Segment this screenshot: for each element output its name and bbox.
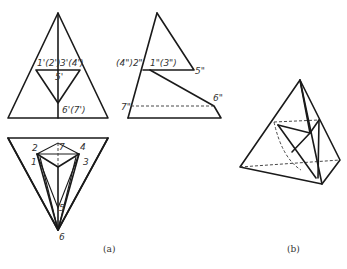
label-top-5: 5 [59,203,65,213]
iso-cut-inner [292,133,310,152]
label-front-6-7: 6'(7') [62,105,85,115]
technical-drawing: 1'(2') 3'(4') 5' 6'(7') (4")2" 1"(3") 5"… [0,0,347,269]
side-lower-shape [128,70,221,118]
label-top-3: 3 [83,157,89,167]
iso-cut-vertical [318,120,319,178]
iso-apex-line [300,80,310,133]
label-top-7: 7 [59,142,65,152]
label-side-7: 7" [121,102,131,112]
label-side-4-2: (4")2" [116,58,143,68]
label-side-6: 6" [213,93,223,103]
isometric-view [240,80,340,184]
top-view [8,138,108,230]
caption-b: (b) [287,244,300,254]
top-facet-line-l [40,157,58,230]
iso-hidden-base [240,160,340,167]
label-top-6: 6 [59,232,65,242]
top-facet-line-r [58,157,76,230]
iso-outer-outline [240,80,340,184]
label-front-3-4: 3'(4') [60,58,83,68]
label-side-5: 5" [195,66,205,76]
iso-hidden-cut-top [274,120,319,122]
label-front-1-2: 1'(2') [37,58,60,68]
label-front-5: 5' [55,72,63,82]
label-side-1-3: 1"(3") [150,58,177,68]
label-top-4: 4 [80,142,86,152]
label-top-2: 2 [32,143,38,153]
caption-a: (a) [103,244,115,254]
label-top-1: 1 [31,157,37,167]
